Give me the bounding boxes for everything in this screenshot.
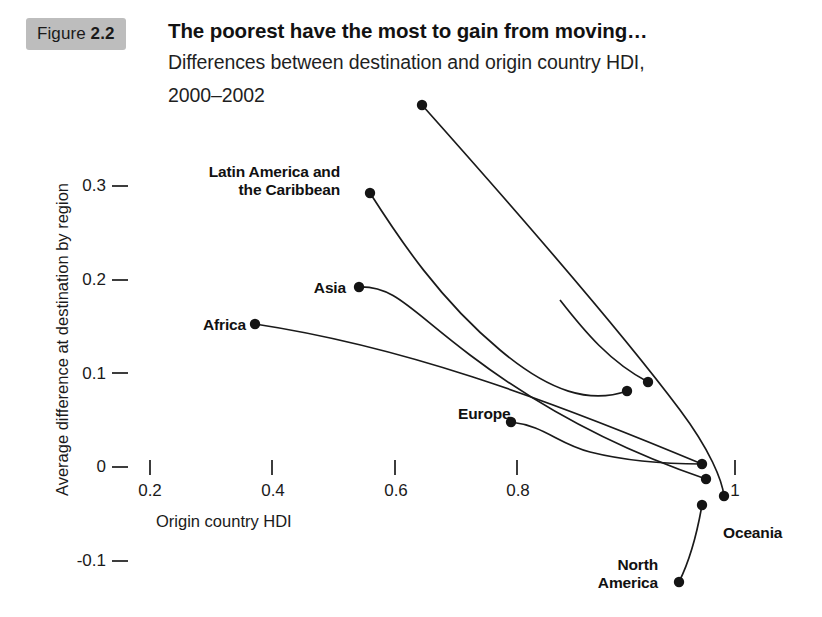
data-point-north-america-end (697, 500, 707, 510)
series-line-latin-america-and-the-caribbean (370, 193, 627, 396)
data-point-asia-origin (354, 282, 364, 292)
data-point-africa-origin (250, 319, 260, 329)
data-point-oceania-origin (417, 100, 427, 110)
data-point-north-america-origin (674, 577, 684, 587)
data-point-oceania-end (719, 491, 729, 501)
y-axis-ticks (112, 186, 128, 561)
data-point-africa-europe-end (697, 459, 707, 469)
series-line-europe (511, 422, 702, 464)
series-line-africa (255, 324, 702, 464)
series-line-north-america (679, 505, 702, 582)
series-line-unlabelled (560, 300, 648, 382)
series-line-asia (359, 287, 706, 479)
data-point-latin-america-end (622, 386, 632, 396)
data-point-unlabelled-end (643, 377, 653, 387)
series-line-oceania (422, 105, 724, 496)
data-point-latin-america-origin (365, 188, 375, 198)
plot-area (0, 0, 822, 617)
data-point-europe-origin (506, 417, 516, 427)
data-point-asia-end (701, 474, 711, 484)
figure-root: Figure 2.2 The poorest have the most to … (0, 0, 822, 617)
